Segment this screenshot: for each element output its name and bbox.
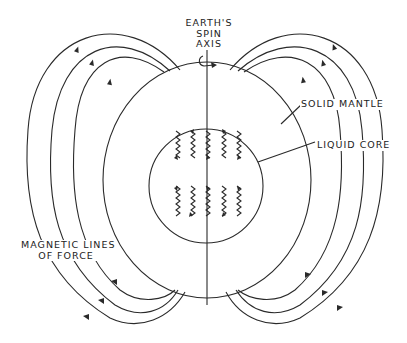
solid-mantle-leader xyxy=(281,104,302,124)
spin-axis-label-line1: EARTH'S xyxy=(179,18,239,29)
solid-mantle-label: SOLID MANTLE xyxy=(300,99,385,110)
earth-magnetic-field-diagram xyxy=(0,0,407,343)
spin-axis-label: EARTH'S SPIN AXIS xyxy=(178,18,240,50)
liquid-core-label: LIQUID CORE xyxy=(316,140,391,151)
magnetic-lines-label-line1: MAGNETIC LINES xyxy=(21,240,111,251)
spin-axis-label-line3: AXIS xyxy=(179,39,239,50)
liquid-core-leader xyxy=(258,142,315,162)
left-magnetic-field-lines xyxy=(27,34,185,323)
magnetic-lines-label: MAGNETIC LINES OF FORCE xyxy=(20,240,112,261)
right-magnetic-field-lines xyxy=(226,34,383,323)
magnetic-lines-label-line2: OF FORCE xyxy=(21,251,111,262)
